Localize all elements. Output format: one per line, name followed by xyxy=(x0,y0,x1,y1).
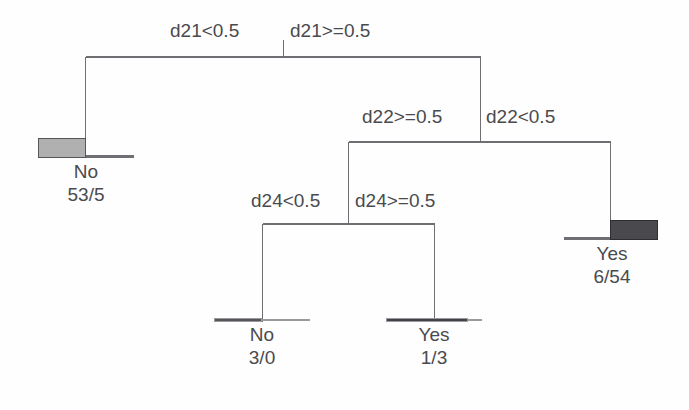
leaf-class-label: Yes xyxy=(562,243,662,265)
split-label-node2-right: d22<0.5 xyxy=(486,106,555,128)
leaf-bar-fill xyxy=(214,318,262,322)
leaf-node-yes-1-3: Yes 1/3 xyxy=(384,324,484,369)
leaf-class-label: No xyxy=(36,161,136,183)
leaf-bar-baseline xyxy=(262,319,310,321)
leaf-class-label: Yes xyxy=(384,324,484,346)
leaf-counts-label: 1/3 xyxy=(384,346,484,369)
leaf-bar-fill xyxy=(386,318,468,322)
split-label-node2-left: d22>=0.5 xyxy=(362,106,442,128)
leaf-bar-no-53-5 xyxy=(38,138,134,160)
leaf-bar-fill xyxy=(38,138,86,158)
leaf-node-no-53-5: No 53/5 xyxy=(36,161,136,206)
leaf-bar-baseline xyxy=(564,237,612,240)
leaf-class-label: No xyxy=(212,324,312,346)
leaf-bar-fill xyxy=(610,220,658,240)
split-label-root-right: d21>=0.5 xyxy=(290,20,370,42)
leaf-counts-label: 6/54 xyxy=(562,265,662,288)
leaf-bar-baseline xyxy=(468,319,482,321)
leaf-node-yes-6-54: Yes 6/54 xyxy=(562,243,662,288)
split-label-root-left: d21<0.5 xyxy=(170,20,239,42)
decision-tree-figure: d21<0.5 d21>=0.5 d22>=0.5 d22<0.5 d24<0.… xyxy=(0,0,689,410)
leaf-bar-yes-6-54 xyxy=(564,220,660,242)
leaf-bar-baseline xyxy=(86,155,134,158)
leaf-counts-label: 3/0 xyxy=(212,346,312,369)
split-label-node3-right: d24>=0.5 xyxy=(355,190,435,212)
leaf-counts-label: 53/5 xyxy=(36,183,136,206)
split-label-node3-left: d24<0.5 xyxy=(251,190,320,212)
leaf-node-no-3-0: No 3/0 xyxy=(212,324,312,369)
